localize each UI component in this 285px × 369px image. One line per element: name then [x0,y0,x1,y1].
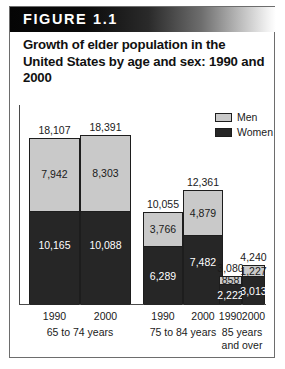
x-group-caption-2: 85 yearsand over [187,326,285,352]
bar-75to84-1990-total-value: 10,055 [139,198,187,210]
bar-75to84-2000-total-value: 12,361 [179,176,227,188]
chart-plot-area: Men Women 7,94210,16518,1078,30310,08818… [10,103,276,359]
bar-85over-2000-men-value: 1,227 [240,266,266,277]
bar-65to74-2000-men-segment: 8,303 [81,136,130,212]
bar-65to74-1990: 7,94210,165 [29,138,80,304]
x-tick-bar-65to74-1990: 1990 [35,310,75,322]
group-caption-line1: 65 to 74 years [25,326,135,339]
x-tick-bar-65to74-2000: 2000 [86,310,126,322]
bar-85over-1990-men-segment: 858 [220,277,241,285]
bar-85over-2000-women-value: 3,013 [240,286,266,297]
bar-65to74-2000-total-value: 18,391 [82,121,130,133]
x-tick-bar-85over-2000: 2000 [234,310,274,322]
x-tick-bar-75to84-1990: 1990 [143,310,183,322]
legend-label-women: Women [237,126,273,138]
bar-75to84-2000-men-segment: 4,879 [184,191,222,236]
bar-85over-2000-women-segment: 3,013 [243,277,264,305]
bar-65to74-1990-women-value: 10,165 [38,240,70,251]
bar-85over-2000-men-segment: 1,227 [243,266,264,277]
bar-75to84-2000: 4,8797,482 [183,190,223,304]
figure-number-label: FIGURE 1.1 [23,11,118,27]
bar-75to84-2000-men-value: 4,879 [190,208,216,219]
bar-65to74-1990-total-value: 18,107 [31,124,79,136]
y-axis-line [19,105,20,305]
bar-75to84-1990: 3,7666,289 [143,212,183,304]
legend-swatch-women-icon [215,128,232,137]
legend-item-men: Men [215,111,273,123]
bar-65to74-2000-men-value: 8,303 [92,168,118,179]
group-caption-line1: 85 years [187,326,285,339]
bar-65to74-2000-women-segment: 10,088 [81,212,130,305]
figure-header-band: FIGURE 1.1 [10,7,276,32]
bar-75to84-1990-women-value: 6,289 [150,271,176,282]
bar-85over-2000: 1,2273,013 [242,265,265,304]
chart-legend: Men Women [215,111,273,141]
bar-65to74-2000-women-value: 10,088 [89,240,121,251]
legend-label-men: Men [237,111,257,123]
legend-swatch-men-icon [215,113,232,122]
bar-65to74-1990-men-segment: 7,942 [30,139,79,212]
bar-75to84-1990-men-segment: 3,766 [144,213,182,248]
figure-title: Growth of elder population in the United… [23,37,267,87]
legend-item-women: Women [215,126,273,138]
figure-card: FIGURE 1.1 Growth of elder population in… [9,6,275,358]
group-caption-line2: and over [187,339,285,352]
bar-75to84-1990-men-value: 3,766 [150,224,176,235]
bar-65to74-1990-women-segment: 10,165 [30,212,79,305]
bar-85over-1990-women-segment: 2,222 [220,285,241,305]
bar-85over-2000-total-value: 4,240 [230,251,278,263]
x-group-caption-0: 65 to 74 years [25,326,135,339]
bar-65to74-1990-men-value: 7,942 [41,169,67,180]
bar-65to74-2000: 8,30310,088 [80,135,131,304]
bar-85over-1990: 8582,222 [219,276,242,304]
bar-75to84-1990-women-segment: 6,289 [144,247,182,305]
